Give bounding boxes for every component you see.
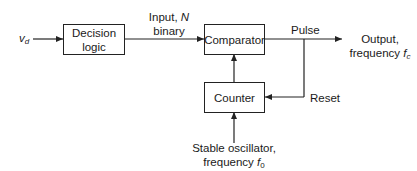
input-n-text: Input, [149,11,181,23]
vd-sub: d [25,37,29,46]
comparator-block: Comparator [204,24,265,55]
n-var: N [181,11,189,23]
oscillator-frequency-text: frequency [203,156,257,168]
pulse-text: Pulse [291,24,320,36]
output-label: Output, frequency fc [344,32,416,64]
pulse-label: Pulse [291,23,320,37]
oscillator-text: Stable oscillator, [184,141,284,155]
input-vd-label: vd [19,31,29,49]
input-n-label: Input, N binary [144,10,194,38]
binary-text: binary [144,24,194,38]
counter-label: Counter [214,91,255,105]
output-frequency-text: frequency [350,47,404,59]
decision-logic-line2: logic [72,40,116,54]
reset-text: Reset [310,92,340,104]
oscillator-label: Stable oscillator, frequency f0 [184,141,284,171]
f0-sub: 0 [260,161,264,170]
fc-sub: c [406,52,410,61]
decision-logic-line1: Decision [72,26,116,40]
reset-label: Reset [310,91,340,105]
counter-block: Counter [204,82,265,113]
decision-logic-block: Decision logic [63,24,125,55]
comparator-label: Comparator [204,33,265,47]
output-text: Output, [344,32,416,46]
